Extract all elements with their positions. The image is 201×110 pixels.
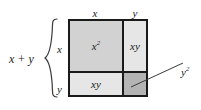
- cell-xy-bottom-left-label: xy: [91, 79, 101, 90]
- callout-leader-line: [130, 62, 184, 88]
- cell-x-squared: x2: [70, 21, 124, 73]
- side-edge-label-x-text: x: [57, 43, 62, 55]
- cell-xy-bottom-left: xy: [70, 73, 124, 95]
- left-brace-icon: [44, 18, 58, 98]
- top-edge-label-x-text: x: [93, 7, 98, 19]
- top-edge-label-y-text: y: [133, 7, 138, 19]
- cell-xy-top-right-label: xy: [130, 41, 140, 52]
- callout-label-y-squared-text: y2: [181, 66, 189, 78]
- side-edge-label-y: y: [57, 79, 62, 97]
- cell-x-squared-label: x2: [92, 40, 100, 52]
- callout-label-y-squared: y2: [181, 62, 189, 80]
- algebra-area-model-figure: x y x + y x y x2 xy xy y2: [0, 0, 201, 110]
- side-edge-label-x: x: [57, 39, 62, 57]
- side-edge-label-y-text: y: [57, 83, 62, 95]
- left-sum-label-text: x + y: [9, 52, 34, 66]
- left-sum-label: x + y: [9, 49, 34, 67]
